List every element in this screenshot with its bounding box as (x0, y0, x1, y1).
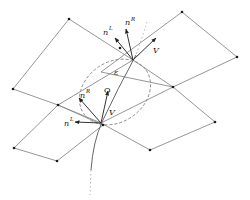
cell-bottom-right (101, 87, 215, 150)
upper-V-label: V (153, 46, 160, 55)
node (236, 56, 239, 59)
upper-nR-label: n (125, 18, 130, 27)
node (68, 18, 71, 21)
mesh-nodes (12, 11, 239, 163)
mesh-cells (13, 12, 237, 161)
node (181, 11, 184, 14)
node (12, 88, 15, 91)
lower-nL-label: n (64, 119, 69, 128)
lower-nR-label: n (80, 91, 85, 100)
upper-nL-superscript: L (108, 25, 113, 31)
cell-top-right (101, 12, 237, 87)
node (172, 86, 175, 89)
node (149, 149, 152, 152)
lower-nR-superscript: R (85, 88, 90, 94)
lower-nL-superscript: L (69, 116, 74, 122)
lower-V-arrow-icon (101, 91, 108, 123)
upper-nR-superscript: R (130, 16, 135, 22)
node (57, 104, 60, 107)
upper-nL-label: n (103, 28, 108, 37)
node (102, 124, 105, 127)
cell-bottom-left (14, 105, 103, 161)
lower-vectors: n L n R O V (64, 86, 116, 128)
node (56, 160, 59, 163)
node (119, 47, 122, 50)
origin-O-label: O (104, 86, 111, 95)
node (214, 121, 217, 124)
node (13, 147, 16, 150)
epsilon-label: ε (114, 68, 118, 77)
interface-curve (90, 22, 147, 195)
interface-mesh-diagram: n L n R V ε n L n R O V (0, 0, 250, 200)
